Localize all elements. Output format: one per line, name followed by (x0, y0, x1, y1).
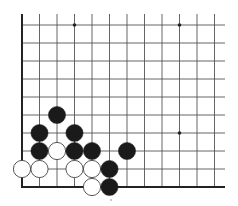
black-stone (66, 142, 83, 159)
star-point (178, 23, 182, 27)
white-stone (48, 142, 65, 159)
marks-layer (110, 199, 112, 201)
black-stone (48, 106, 65, 123)
star-point (73, 23, 77, 27)
black-stone (101, 160, 118, 177)
white-stone (66, 160, 83, 177)
white-stone (83, 160, 100, 177)
white-stone (13, 160, 30, 177)
black-stone (31, 124, 48, 141)
white-stone (31, 160, 48, 177)
go-board-diagram (0, 0, 238, 206)
speck-mark (110, 199, 112, 201)
black-stone (83, 142, 100, 159)
white-stone (83, 178, 100, 195)
black-stone (66, 124, 83, 141)
black-stone (31, 142, 48, 159)
black-stone (118, 142, 135, 159)
black-stone (101, 178, 118, 195)
board-grid (21, 14, 225, 188)
star-point (178, 131, 182, 135)
